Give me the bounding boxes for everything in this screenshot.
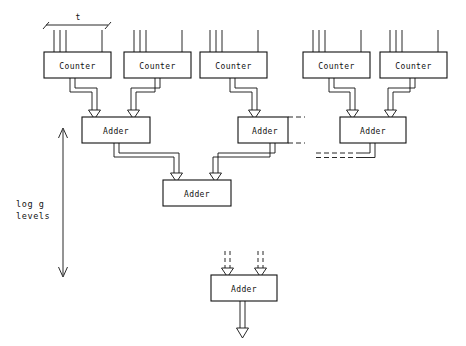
adder-final: Adder (211, 275, 277, 301)
counter-5: Counter (380, 52, 447, 78)
counter-5-label: Counter (395, 62, 432, 71)
levels-label-line2: levels (16, 211, 50, 221)
counter-input-lines (54, 30, 438, 52)
connector-adderA-to-adderL2 (114, 143, 183, 182)
t-dimension-bracket: t (43, 13, 111, 29)
counter-boxes: Counter Counter Counter Counter Counter (44, 52, 447, 78)
adder-l1-a-label: Adder (103, 127, 129, 136)
final-input-right (255, 251, 267, 277)
connectors-adders-to-level2 (114, 143, 375, 182)
adder-final-label: Adder (231, 285, 257, 294)
counter-4-label: Counter (318, 62, 355, 71)
connector-counter5-to-adderC (385, 78, 416, 119)
counter-3: Counter (200, 52, 267, 78)
adder-l2: Adder (163, 180, 231, 206)
final-adder-inputs (222, 251, 267, 277)
counter-1-label: Counter (59, 62, 96, 71)
counter-1: Counter (44, 52, 111, 78)
final-input-left (222, 251, 234, 277)
t-bracket-left-tick (43, 22, 49, 29)
final-output-arrow (237, 301, 249, 338)
counter-2: Counter (124, 52, 191, 78)
counter-2-label: Counter (139, 62, 176, 71)
connector-counter1-to-adderA (70, 78, 101, 119)
counter-4: Counter (303, 52, 370, 78)
connector-counter3-to-adderB (230, 78, 261, 119)
adder-l1-c-label: Adder (360, 127, 386, 136)
adder-l2-label: Adder (184, 190, 210, 199)
connector-adderB-to-adderL2 (210, 143, 276, 182)
adder-l1-b-label: Adder (252, 127, 278, 136)
counter-adder-tree-diagram: t Counter Coun (0, 0, 466, 346)
levels-label-line1: log g (16, 199, 45, 209)
t-bracket-right-tick (105, 22, 111, 29)
adder-l1-a: Adder (82, 117, 150, 143)
figure-canvas: t Counter Coun (0, 0, 466, 346)
connector-counter2-to-adderA (128, 78, 161, 119)
connector-adderC-output (356, 143, 375, 158)
connectors-counters-to-adders (70, 78, 415, 119)
t-dimension-label: t (76, 13, 81, 22)
adder-l1-b: Adder (238, 117, 288, 143)
connector-counter4-to-adderC (329, 78, 359, 119)
log-g-levels-indicator: log g levels (16, 128, 68, 277)
level1-adder-boxes: Adder Adder Adder (82, 117, 406, 143)
adder-l1-c: Adder (340, 117, 406, 143)
counter-3-label: Counter (215, 62, 252, 71)
